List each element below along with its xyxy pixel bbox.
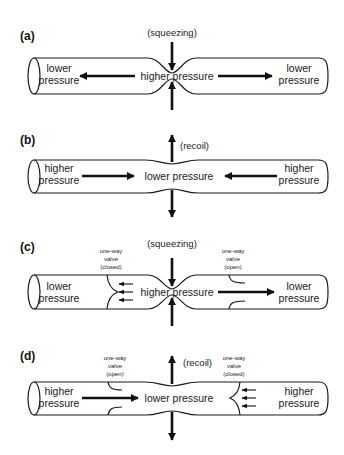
right-pressure-line1: lower (286, 280, 312, 292)
right-pressure-line2: pressure (279, 74, 320, 86)
force-label: (recoil) (183, 357, 212, 368)
left-valve-line1: one-way (100, 248, 123, 254)
panel-b: (b) (recoil) higher pressure lower press… (20, 133, 328, 217)
left-pressure-line2: pressure (39, 397, 80, 409)
valve-closed-icon (230, 382, 240, 415)
left-pressure-line1: lower (46, 280, 72, 292)
left-valve-line3: (open) (106, 371, 123, 377)
right-valve-line3: (closed) (223, 371, 244, 377)
left-valve-line3: (closed) (100, 264, 121, 270)
panel-d: (d) (recoil) one-way valve (open) one-wa… (20, 349, 328, 440)
panel-label: (b) (20, 133, 35, 147)
panel-c: (c) (squeezing) one-way valve (closed) o… (20, 238, 328, 326)
right-valve-line2: valve (226, 256, 241, 262)
panel-label: (d) (20, 349, 35, 363)
left-pressure-line1: higher (44, 162, 74, 174)
left-valve-line1: one-way (104, 355, 127, 361)
panel-a: (a) (squeezing) lower pressure higher pr… (20, 27, 328, 110)
left-pressure-line2: pressure (39, 74, 80, 86)
left-pressure-line2: pressure (39, 174, 80, 186)
left-valve-line2: valve (104, 256, 119, 262)
right-pressure-line1: higher (284, 385, 314, 397)
force-label: (squeezing) (147, 27, 197, 38)
valve-open-top-icon (229, 275, 245, 283)
right-pressure-line2: pressure (279, 174, 320, 186)
left-pressure-line1: lower (46, 62, 72, 74)
right-pressure-line1: lower (286, 62, 312, 74)
center-pressure: lower pressure (145, 170, 214, 182)
right-valve-line2: valve (227, 363, 242, 369)
left-pressure-line1: higher (44, 385, 74, 397)
center-pressure: higher pressure (141, 70, 214, 82)
right-pressure-line2: pressure (279, 397, 320, 409)
right-pressure-line1: higher (284, 162, 314, 174)
right-valve-line1: one-way (223, 355, 246, 361)
panel-label: (a) (20, 29, 35, 43)
panel-label: (c) (20, 240, 35, 254)
valve-open-bottom-icon (108, 407, 122, 415)
valve-closed-icon (107, 275, 118, 309)
left-valve-line2: valve (108, 363, 123, 369)
force-label: (squeezing) (147, 238, 197, 249)
center-pressure: higher pressure (141, 286, 214, 298)
pressure-flow-diagram: (a) (squeezing) lower pressure higher pr… (0, 0, 344, 455)
right-pressure-line2: pressure (279, 292, 320, 304)
left-pressure-line2: pressure (39, 292, 80, 304)
force-label: (recoil) (180, 140, 209, 151)
valve-open-bottom-icon (229, 301, 245, 309)
center-pressure: lower pressure (145, 392, 214, 404)
right-valve-line3: (open) (224, 264, 241, 270)
valve-open-top-icon (108, 382, 122, 390)
right-valve-line1: one-way (222, 248, 245, 254)
